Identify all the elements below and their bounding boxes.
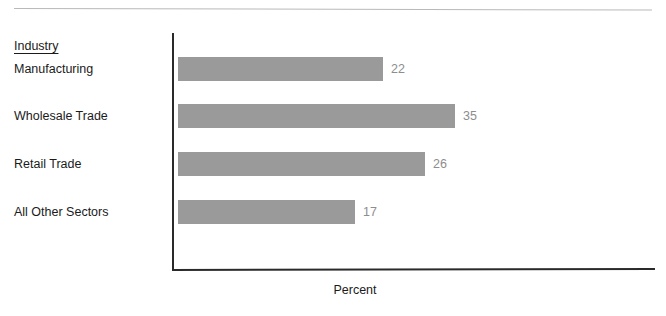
bar-value-retail-trade: 26 [433,157,447,171]
chart-figure: Industry Manufacturing Wholesale Trade R… [0,0,666,316]
bar-manufacturing [178,57,383,81]
x-axis-title: Percent [0,283,666,297]
category-label-wholesale-trade: Wholesale Trade [14,109,108,123]
category-axis-header: Industry [14,39,58,53]
bar-value-wholesale-trade: 35 [463,109,477,123]
bar-all-other-sectors [178,200,355,224]
y-axis-line [172,33,174,271]
x-axis-line [172,268,655,271]
page-divider-rule [14,8,652,11]
category-label-manufacturing: Manufacturing [14,62,93,76]
category-label-all-other-sectors: All Other Sectors [14,205,108,219]
bar-wholesale-trade [178,104,455,128]
bar-value-all-other-sectors: 17 [363,205,377,219]
category-label-retail-trade: Retail Trade [14,157,81,171]
bar-value-manufacturing: 22 [391,62,405,76]
bar-retail-trade [178,152,425,176]
